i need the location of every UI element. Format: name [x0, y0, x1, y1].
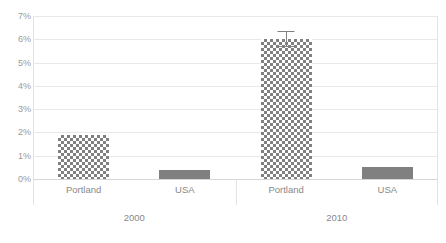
y-axis-tick-label: 2% [3, 128, 31, 137]
y-axis-tick-label: 4% [3, 81, 31, 90]
x-axis-tick-label: USA [337, 185, 438, 195]
bars-layer [33, 16, 438, 179]
error-bar-cap-bottom [278, 46, 295, 47]
y-axis-tick-label: 0% [3, 175, 31, 184]
bar[interactable] [58, 135, 109, 179]
error-bar [278, 31, 295, 47]
y-axis-tick-label: 6% [3, 35, 31, 44]
y-axis-tick-label: 3% [3, 105, 31, 114]
x-axis-tick-label: Portland [33, 185, 134, 195]
y-axis-tick-label: 7% [3, 12, 31, 21]
bar-chart: 0%1%2%3%4%5%6%7% PortlandUSAPortlandUSA … [0, 0, 446, 243]
bar-slot [159, 16, 210, 179]
bar[interactable] [362, 167, 413, 179]
error-bar-cap-top [278, 31, 295, 32]
group-label: 2000 [33, 213, 236, 223]
bar[interactable] [159, 170, 210, 179]
error-bar-stem [286, 31, 287, 47]
y-axis-tick-label: 5% [3, 58, 31, 67]
bar-slot [58, 16, 109, 179]
x-axis-labels: PortlandUSAPortlandUSA [33, 185, 438, 203]
bar[interactable] [261, 39, 312, 179]
group-label: 2010 [236, 213, 439, 223]
bar-slot [362, 16, 413, 179]
y-axis-tick-label: 1% [3, 151, 31, 160]
x-axis-tick-label: USA [134, 185, 235, 195]
group-labels: 20002010 [33, 213, 438, 231]
x-axis-tick-label: Portland [236, 185, 337, 195]
y-axis: 0%1%2%3%4%5%6%7% [0, 16, 31, 179]
bar-slot [261, 16, 312, 179]
